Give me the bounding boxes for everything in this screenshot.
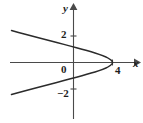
y-tick-label-neg2: −2 [57, 88, 69, 99]
origin-label-0: 0 [61, 64, 67, 75]
parabola-figure: y x 2 0 −2 4 [0, 0, 143, 123]
x-tick-label-4: 4 [115, 65, 121, 76]
x-axis-label: x [133, 58, 139, 69]
y-axis-label: y [63, 3, 68, 14]
y-tick-label-2: 2 [61, 29, 67, 40]
y-axis-arrow-icon [70, 3, 78, 10]
graph-canvas [0, 0, 143, 123]
